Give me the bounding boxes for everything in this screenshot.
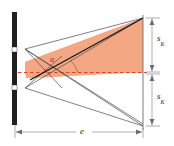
e-arrow-right bbox=[136, 130, 142, 135]
upper-slit bbox=[12, 47, 17, 52]
label-sk-bottom-subscript: K bbox=[161, 99, 165, 105]
ray-lower-to-screen-bottom bbox=[25, 88, 143, 126]
slit-barrier bbox=[12, 12, 17, 125]
label-distance-e-symbol: e bbox=[80, 126, 84, 136]
label-sk-top-subscript: K bbox=[161, 41, 165, 47]
label-sk-bottom: sK bbox=[157, 92, 165, 103]
dimension-e bbox=[15, 125, 143, 138]
sk-top-arrow-down bbox=[150, 65, 155, 71]
figure-canvas bbox=[0, 0, 174, 146]
wedge-fill-join bbox=[25, 18, 143, 73]
barrier-segment-bottom bbox=[12, 90, 17, 125]
label-sk-top-symbol: s bbox=[157, 33, 161, 43]
dimension-sk-top bbox=[146, 18, 160, 72]
sk-bottom-arrow-down bbox=[150, 119, 155, 125]
label-distance-e: e bbox=[80, 127, 84, 136]
sk-bottom-arrow-up bbox=[150, 75, 155, 81]
barrier-segment-middle bbox=[12, 52, 17, 85]
optics-two-slit-figure: sK sK e α bbox=[0, 0, 174, 146]
label-sk-bottom-symbol: s bbox=[157, 91, 161, 101]
label-angle-alpha-symbol: α bbox=[50, 55, 54, 64]
e-arrow-left bbox=[16, 130, 22, 135]
lower-slit bbox=[12, 85, 17, 90]
sk-top-arrow-up bbox=[150, 19, 155, 25]
label-sk-top: sK bbox=[157, 34, 165, 45]
label-angle-alpha: α bbox=[50, 56, 54, 64]
barrier-segment-top bbox=[12, 12, 17, 47]
